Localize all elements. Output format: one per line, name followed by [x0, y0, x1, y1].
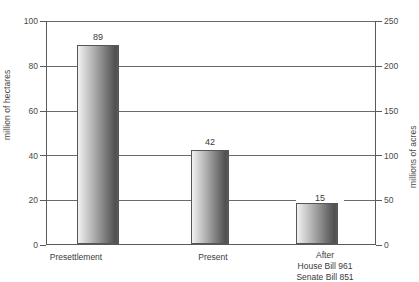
bar-after-bills [296, 203, 338, 244]
bar-presettlement [77, 45, 119, 244]
bar-chart-figure: million of hectares millions of acres 10… [0, 0, 419, 282]
left-tick-label-80: 80 [14, 61, 38, 71]
gridline-100 [47, 21, 375, 22]
right-tick-label-50: 50 [384, 195, 410, 205]
left-tick-label-20: 20 [14, 195, 38, 205]
right-tickmark-50 [376, 200, 382, 201]
category-label-line-2: House Bill 961 [270, 261, 380, 272]
category-label-line-1: Present [167, 252, 259, 263]
right-tickmark-200 [376, 66, 382, 67]
bar-value-present: 42 [191, 137, 229, 147]
plot-area: 89 42 15 [46, 21, 376, 245]
category-label-present: Present [167, 252, 259, 263]
left-tick-label-40: 40 [14, 151, 38, 161]
category-label-after-bills: After House Bill 961 Senate Bill 851 [270, 250, 380, 282]
right-tick-label-200: 200 [384, 61, 410, 71]
left-tick-label-60: 60 [14, 106, 38, 116]
left-tick-label-100: 100 [14, 16, 38, 26]
right-tick-label-0: 0 [384, 240, 410, 250]
right-tickmark-100 [376, 155, 382, 156]
category-label-line-1: After [270, 250, 380, 261]
right-tick-label-100: 100 [384, 151, 410, 161]
bar-value-after-bills: 15 [296, 193, 344, 203]
right-tick-label-150: 150 [384, 106, 410, 116]
right-tickmark-150 [376, 111, 382, 112]
left-tick-label-0: 0 [14, 240, 38, 250]
right-tickmark-0 [376, 245, 382, 246]
left-tickmark-0 [40, 245, 46, 246]
category-label-line-3: Senate Bill 851 [270, 272, 380, 282]
right-tick-label-250: 250 [384, 16, 410, 26]
bar-present [191, 150, 229, 244]
category-label-line-1: Presettlement [26, 252, 126, 263]
right-tickmark-250 [376, 21, 382, 22]
left-axis-title: million of hectares [2, 70, 12, 140]
category-label-presettlement: Presettlement [26, 252, 126, 263]
bar-value-presettlement: 89 [77, 32, 119, 42]
